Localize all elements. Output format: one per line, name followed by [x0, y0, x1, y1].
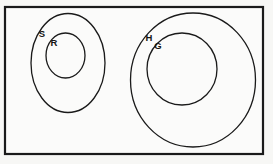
label-set-g: G [154, 40, 161, 51]
euler-diagram-canvas: S R H G [0, 0, 273, 164]
euler-diagram-svg: S R H G [0, 0, 273, 164]
label-set-r: R [51, 37, 58, 48]
label-set-s: S [39, 28, 45, 39]
label-set-h: H [146, 32, 153, 43]
